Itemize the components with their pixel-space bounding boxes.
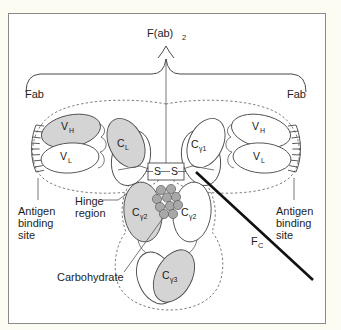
antigen-left-label-line2: binding — [18, 217, 53, 229]
domain-vh-right-subscript: H — [260, 127, 265, 134]
carbohydrate-label: Carbohydrate — [57, 271, 124, 283]
domain-cl-left-label: C — [117, 137, 125, 149]
domain-vl-left-subscript: L — [68, 157, 72, 164]
domain-vl-left-label: V — [60, 150, 67, 162]
domain-vh-left-subscript: H — [69, 127, 74, 134]
domain-cgamma3-label: C — [162, 269, 170, 281]
domain-cgamma1-right-label: C — [191, 138, 199, 150]
domain-cgamma3-subscript: γ3 — [170, 276, 178, 284]
domain-cgamma2-left-label: C — [132, 206, 140, 218]
antigen-right-label-line3: site — [276, 229, 293, 241]
domain-vh-right-label: V — [252, 120, 259, 132]
domain-cgamma2-left-subscript: γ2 — [140, 213, 148, 221]
antigen-left-label-line3: site — [18, 229, 35, 241]
antigen-right-label-line1: Antigen — [276, 205, 313, 217]
fab2-label: F(ab) — [147, 27, 173, 39]
fc-label-subscript: C — [258, 241, 264, 250]
domain-vh-left-label: V — [61, 120, 68, 132]
disulfide-label-right: S — [171, 165, 178, 177]
hinge-region-label-line1: Hinge — [75, 195, 104, 207]
fab-right-label: Fab — [287, 88, 306, 100]
fab2-label-subscript: 2 — [182, 33, 186, 42]
domain-cgamma2-right-subscript: γ2 — [189, 213, 197, 221]
domain-cgamma1-right-subscript: γ1 — [199, 145, 207, 153]
antigen-left-label-line1: Antigen — [18, 205, 55, 217]
domain-vl-right-subscript: L — [261, 157, 265, 164]
fab-left-label: Fab — [25, 88, 44, 100]
domain-vl-right-label: V — [253, 150, 260, 162]
domain-cgamma2-right-label: C — [181, 206, 189, 218]
antibody-structure-diagram: F(ab) 2 Fab Fab V H V L C L — [0, 0, 341, 330]
hinge-region-label-line2: region — [75, 207, 106, 219]
figure-root: F(ab) 2 Fab Fab V H V L C L — [0, 0, 341, 330]
antigen-right-label-line2: binding — [276, 217, 311, 229]
fc-label: F — [251, 235, 258, 247]
disulfide-label-left: S — [154, 165, 161, 177]
domain-cl-left-subscript: L — [125, 144, 129, 151]
